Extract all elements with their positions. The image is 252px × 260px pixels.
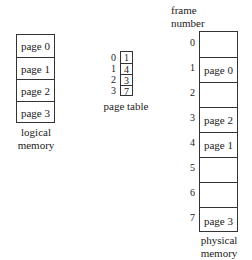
- frame-number-6: 6: [185, 187, 195, 198]
- page-table-entry-1: 4: [121, 63, 132, 74]
- frame-4: page 1: [200, 132, 237, 157]
- frame-5: [200, 157, 237, 182]
- frame-number-1: 1: [185, 62, 195, 73]
- logical-memory-label-line2: memory: [6, 139, 66, 152]
- frame-6: [200, 182, 237, 207]
- frame-0: [200, 32, 237, 57]
- frame-number-5: 5: [185, 162, 195, 173]
- logical-page-3: page 3: [17, 101, 54, 124]
- page-table-label: page table: [96, 100, 156, 113]
- logical-memory-label: logical memory: [6, 126, 66, 152]
- page-table-index-2: 2: [106, 74, 116, 85]
- frame-2: [200, 82, 237, 107]
- physical-memory-label-line1: physical: [192, 234, 246, 247]
- page-table-index-0: 0: [106, 52, 116, 63]
- frame-number-header-line1: frame: [171, 4, 205, 17]
- page-table-entry-3: 7: [121, 85, 132, 97]
- page-table-entry-2: 3: [121, 74, 132, 85]
- frame-number-3: 3: [185, 112, 195, 123]
- frame-number-header-line2: number: [171, 17, 205, 30]
- frame-3: page 2: [200, 107, 237, 132]
- logical-page-2: page 2: [17, 79, 54, 101]
- page-table-entry-0: 1: [121, 52, 132, 63]
- logical-page-0: page 0: [17, 35, 54, 57]
- page-table-index-3: 3: [106, 85, 116, 96]
- frame-1: page 0: [200, 57, 237, 82]
- frame-7: page 3: [200, 207, 237, 233]
- frame-number-7: 7: [185, 212, 195, 223]
- physical-memory-label: physical memory: [192, 234, 246, 260]
- frame-number-0: 0: [185, 37, 195, 48]
- page-table: 1 4 3 7: [120, 51, 133, 96]
- frame-number-2: 2: [185, 87, 195, 98]
- logical-memory-label-line1: logical: [6, 126, 66, 139]
- frame-number-header: frame number: [171, 4, 205, 30]
- logical-page-1: page 1: [17, 57, 54, 79]
- logical-memory: page 0 page 1 page 2 page 3: [16, 34, 55, 123]
- frame-number-4: 4: [185, 137, 195, 148]
- physical-memory: page 0 page 2 page 1 page 3: [199, 31, 238, 232]
- page-table-index-1: 1: [106, 63, 116, 74]
- physical-memory-label-line2: memory: [192, 247, 246, 260]
